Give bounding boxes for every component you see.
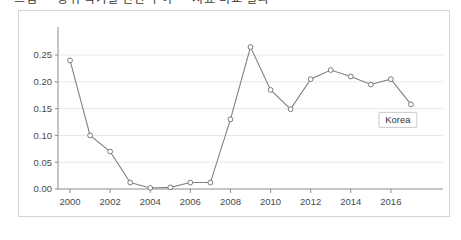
y-axis-tick-label: 0.05	[34, 157, 53, 168]
cropped-header-text: 그림 — 상위 국가별 연간 추이 — 지표 비교 결과	[0, 0, 461, 9]
x-axis-tick-label: 2004	[140, 196, 161, 207]
data-point-marker	[68, 58, 73, 63]
x-axis-tick-label: 2010	[260, 196, 281, 207]
x-axis-tick-label: 2008	[220, 196, 241, 207]
chart-svg: 0.000.050.100.150.200.25 200020022004200…	[19, 11, 451, 218]
data-point-marker	[188, 180, 193, 185]
data-point-marker	[308, 77, 313, 82]
line-chart: 0.000.050.100.150.200.25 200020022004200…	[19, 11, 451, 218]
series-polyline	[70, 47, 411, 188]
y-axis-tick-label: 0.00	[34, 183, 53, 194]
gridlines	[58, 55, 443, 162]
data-point-marker	[348, 74, 353, 79]
x-axis-tick-label: 2012	[300, 196, 321, 207]
data-point-marker	[108, 149, 113, 154]
x-axis: 200020022004200620082010201220142016	[58, 189, 443, 207]
y-axis-tick-label: 0.15	[34, 103, 53, 114]
data-point-marker	[168, 185, 173, 190]
data-point-marker	[409, 102, 414, 107]
chart-frame: 0.000.050.100.150.200.25 200020022004200…	[18, 10, 450, 217]
data-point-marker	[128, 180, 133, 185]
data-point-marker	[208, 180, 213, 185]
x-axis-tick-label: 2016	[380, 196, 401, 207]
data-point-marker	[248, 45, 253, 50]
data-point-marker	[328, 68, 333, 73]
y-axis-tick-label: 0.20	[34, 76, 53, 87]
x-axis-tick-label: 2000	[59, 196, 80, 207]
series-annotation-korea: Korea	[379, 112, 417, 127]
data-point-marker	[388, 77, 393, 82]
y-axis: 0.000.050.100.150.200.25	[34, 27, 59, 194]
data-point-marker	[268, 87, 273, 92]
y-axis-tick-label: 0.10	[34, 130, 53, 141]
cropped-header-label: 그림 — 상위 국가별 연간 추이 — 지표 비교 결과	[14, 0, 269, 6]
data-point-marker	[288, 107, 293, 112]
data-series-korea	[68, 45, 414, 191]
x-axis-tick-label: 2014	[340, 196, 361, 207]
data-point-marker	[368, 82, 373, 87]
data-point-marker	[148, 186, 153, 191]
data-point-marker	[88, 133, 93, 138]
x-axis-tick-label: 2006	[180, 196, 201, 207]
annotation-label: Korea	[385, 114, 411, 125]
x-axis-tick-label: 2002	[100, 196, 121, 207]
y-axis-tick-label: 0.25	[34, 49, 53, 60]
data-point-marker	[228, 117, 233, 122]
